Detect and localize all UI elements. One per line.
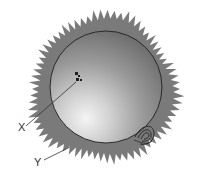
sun-diagram (0, 0, 198, 189)
sun-sphere (50, 31, 162, 143)
label-x: X (18, 122, 25, 133)
leader-line-y (44, 147, 70, 160)
label-y: Y (34, 157, 41, 168)
